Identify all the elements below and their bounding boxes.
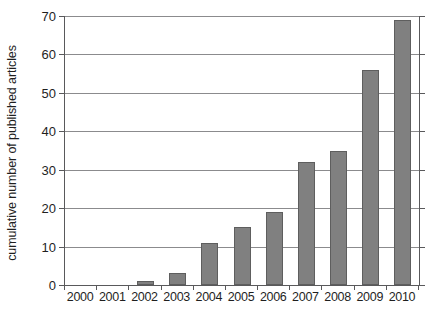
bar-slot <box>226 16 258 285</box>
bar-slot <box>65 16 97 285</box>
bar-slot <box>97 16 129 285</box>
y-axis-tick-label: 70 <box>42 10 56 23</box>
y-axis-tick <box>59 247 64 248</box>
bar-slot <box>355 16 387 285</box>
x-axis-tick-label: 2006 <box>257 290 289 304</box>
x-axis-tick-label: 2007 <box>289 290 321 304</box>
y-axis-title: cumulative number of published articles <box>3 8 21 298</box>
y-axis-tick-label: 20 <box>42 202 56 215</box>
x-axis-tick-label: 2004 <box>193 290 225 304</box>
y-axis-tick-label: 0 <box>49 279 56 292</box>
x-axis-tick <box>418 285 419 290</box>
bar-slot <box>323 16 355 285</box>
y-axis-tick-label: 40 <box>42 125 56 138</box>
y-axis-tick <box>59 208 64 209</box>
y-axis-tick-right <box>420 285 425 286</box>
y-axis-tick <box>59 170 64 171</box>
x-axis-tick-label: 2009 <box>354 290 386 304</box>
bar-2006 <box>266 212 283 285</box>
bar-2008 <box>330 151 347 286</box>
y-axis-tick <box>59 54 64 55</box>
y-axis-tick <box>59 93 64 94</box>
bar-2010 <box>394 20 411 285</box>
bar-slot <box>162 16 194 285</box>
y-axis-tick-right <box>420 54 425 55</box>
x-axis-tick-label: 2001 <box>96 290 128 304</box>
y-axis-tick-label: 50 <box>42 86 56 99</box>
bar-slot <box>258 16 290 285</box>
bar-slot <box>387 16 419 285</box>
x-axis-tick-label: 2003 <box>161 290 193 304</box>
y-axis-tick-right <box>420 170 425 171</box>
y-axis-tick <box>59 16 64 17</box>
y-axis-tick-label: 60 <box>42 48 56 61</box>
bars-layer <box>65 16 419 285</box>
bar-2009 <box>362 70 379 285</box>
y-axis-tick-right <box>420 93 425 94</box>
x-axis-tick-label: 2002 <box>128 290 160 304</box>
x-axis-tick-label: 2005 <box>225 290 257 304</box>
plot-area: 706050403020100 <box>64 16 420 286</box>
bar-2004 <box>201 243 218 285</box>
bar-2003 <box>169 273 186 285</box>
y-axis-tick-right <box>420 208 425 209</box>
bar-chart-figure: cumulative number of published articles … <box>0 0 436 316</box>
y-axis-tick-right <box>420 247 425 248</box>
bar-slot <box>290 16 322 285</box>
y-axis-tick-right <box>420 16 425 17</box>
bar-2007 <box>298 162 315 285</box>
x-axis-tick-label: 2008 <box>322 290 354 304</box>
bar-slot <box>129 16 161 285</box>
y-axis-tick-label: 10 <box>42 240 56 253</box>
bar-2005 <box>234 227 251 285</box>
bar-slot <box>194 16 226 285</box>
x-axis-labels: 2000200120022003200420052006200720082009… <box>64 290 418 304</box>
y-axis-tick-right <box>420 131 425 132</box>
y-axis-tick <box>59 131 64 132</box>
x-axis-tick-label: 2010 <box>386 290 418 304</box>
x-axis-tick-label: 2000 <box>64 290 96 304</box>
y-axis-tick-label: 30 <box>42 163 56 176</box>
